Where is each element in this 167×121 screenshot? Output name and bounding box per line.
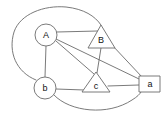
node-b[interactable]: b — [34, 77, 56, 99]
node-A[interactable]: A — [35, 24, 57, 46]
edge-layer — [12, 7, 142, 110]
node-b-circle[interactable] — [34, 77, 56, 99]
node-A-circle[interactable] — [35, 24, 57, 46]
edge-A-b[interactable] — [45, 46, 46, 77]
graph-canvas: A B b c a — [0, 0, 167, 121]
node-B[interactable]: B — [88, 25, 115, 48]
edge-B-a[interactable] — [112, 45, 142, 77]
node-a-rect[interactable] — [139, 76, 160, 92]
edge-b-a[interactable] — [54, 92, 141, 110]
node-c-triangle[interactable] — [82, 72, 110, 92]
edge-c-a[interactable] — [108, 85, 139, 86]
edge-A-c[interactable] — [56, 41, 94, 74]
node-c[interactable]: c — [82, 72, 110, 92]
node-layer: A B b c a — [34, 24, 160, 99]
node-a[interactable]: a — [139, 76, 160, 92]
node-B-triangle[interactable] — [88, 25, 115, 48]
edge-b-c[interactable] — [56, 89, 84, 90]
edge-A-B[interactable] — [57, 31, 98, 32]
graph-figure: A B b c a — [0, 0, 167, 121]
